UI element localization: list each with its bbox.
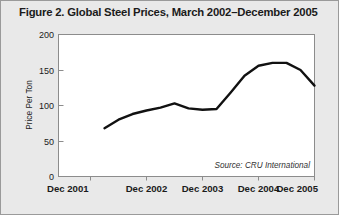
x-tick-label-dec-2005: Dec 2005 [276, 183, 318, 194]
plot-frame [59, 35, 315, 177]
x-tick-label-dec-2004: Dec 2004 [238, 183, 280, 194]
source-note: Source: CRU International [214, 161, 310, 170]
chart-plot-container: 200 150 100 50 0 Price Per Ton Dec 2001 … [19, 25, 322, 203]
y-tick-label-100: 100 [39, 101, 54, 111]
y-tick-label-50: 50 [44, 137, 54, 147]
y-tick-label-0: 0 [49, 172, 54, 182]
figure-title: Figure 2. Global Steel Prices, March 200… [19, 6, 324, 18]
x-tick-label-dec-2003: Dec 2003 [182, 183, 224, 194]
figure-panel: Figure 2. Global Steel Prices, March 200… [0, 0, 339, 215]
y-axis-title: Price Per Ton [24, 80, 34, 130]
y-tick-label-150: 150 [39, 66, 54, 76]
x-tick-label-dec-2001: Dec 2001 [47, 183, 89, 194]
x-tick-label-dec-2002: Dec 2002 [126, 183, 168, 194]
y-tick-label-200: 200 [39, 30, 54, 40]
line-chart-svg: 200 150 100 50 0 Price Per Ton Dec 2001 … [19, 25, 322, 203]
